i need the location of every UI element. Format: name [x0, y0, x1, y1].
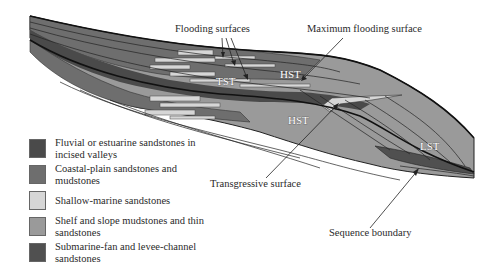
legend-item-shelf-slope: Shelf and slope mudstones and thin sands…: [29, 215, 205, 239]
legend-item-fluvial: Fluvial or estuarine sandstones in incis…: [29, 137, 205, 161]
shelf-slope-swatch: [29, 217, 46, 236]
legend-label: Submarine-fan and levee-channel sandston…: [55, 241, 205, 262]
sequence-boundary-label: Sequence boundary: [329, 227, 412, 238]
flooding-surfaces-label: Flooding surfaces: [175, 23, 250, 34]
hst-upper-label: HST: [280, 68, 301, 80]
hst-lower-label: HST: [288, 114, 309, 126]
lst-label: LST: [420, 140, 440, 152]
tst-label: TST: [216, 75, 236, 87]
legend-label: Coastal-plain sandstones and mudstones: [55, 163, 205, 187]
legend-item-shallow-marine: Shallow-marine sandstones: [29, 189, 205, 213]
fluvial-swatch: [29, 139, 46, 158]
legend: Fluvial or estuarine sandstones in incis…: [29, 137, 205, 262]
legend-item-coastal-plain: Coastal-plain sandstones and mudstones: [29, 163, 205, 187]
legend-item-submarine-fan: Submarine-fan and levee-channel sandston…: [29, 241, 205, 262]
legend-label: Shelf and slope mudstones and thin sands…: [55, 215, 205, 239]
legend-label: Fluvial or estuarine sandstones in incis…: [55, 137, 205, 161]
coastal-plain-swatch: [29, 165, 46, 184]
shallow-marine-swatch: [29, 191, 46, 210]
legend-label: Shallow-marine sandstones: [55, 195, 205, 207]
maximum-flooding-surface-label: Maximum flooding surface: [307, 23, 422, 34]
submarine-fan-swatch: [29, 243, 46, 262]
transgressive-surface-label: Transgressive surface: [210, 178, 301, 189]
